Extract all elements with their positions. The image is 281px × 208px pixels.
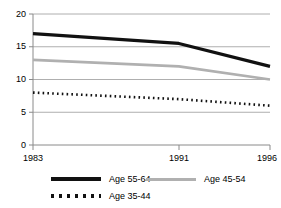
legend-label-age-55-64: Age 55-64 <box>109 174 151 185</box>
x-axis-tick-1983: 1983 <box>18 154 48 163</box>
y-axis-tick-15: 15 <box>10 42 26 51</box>
series-line-age-45-54 <box>33 60 270 80</box>
legend-row-1: Age 55-64 Age 45-54 <box>0 172 281 187</box>
solid-gray-line-icon <box>146 178 196 181</box>
legend-row-2: Age 35-44 <box>0 189 281 204</box>
y-axis-tick-0: 0 <box>10 141 26 150</box>
x-axis-tick-1996: 1996 <box>252 154 281 163</box>
line-chart: 20 15 10 5 0 1983 1991 1996 Age 55-64 Ag… <box>0 0 281 208</box>
series-line-age-35-44 <box>33 93 270 106</box>
series-lines <box>33 34 270 106</box>
solid-black-line-icon <box>51 177 101 181</box>
legend-label-age-35-44: Age 35-44 <box>109 191 151 202</box>
chart-legend: Age 55-64 Age 45-54 Age 35-44 <box>0 172 281 208</box>
dotted-black-line-icon <box>51 194 101 198</box>
y-axis-tick-20: 20 <box>10 10 26 19</box>
y-axis-tick-5: 5 <box>10 108 26 117</box>
y-axis-tick-10: 10 <box>10 75 26 84</box>
legend-label-age-45-54: Age 45-54 <box>204 174 246 185</box>
gridlines <box>33 14 270 112</box>
x-axis-tick-1991: 1991 <box>164 154 194 163</box>
